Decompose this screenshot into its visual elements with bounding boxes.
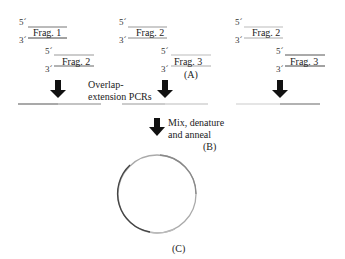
fragment-label: Frag. 1 [33,28,61,38]
three-prime-label: 3´ [19,36,27,45]
arrow-down-icon [149,118,165,136]
five-prime-label: 5´ [161,47,169,56]
pcr-label-line2: extension PCRs [88,92,152,102]
five-prime-label: 5´ [19,18,27,27]
three-prime-label: 3´ [276,65,284,74]
fragment-label: Frag. 2 [62,57,90,67]
five-prime-label: 5´ [235,18,243,27]
fragment-label: Frag. 2 [136,28,164,38]
mix-label-line2: and anneal [168,130,211,140]
step-c-label: (C) [172,244,185,254]
pcr-label-line1: Overlap- [88,80,124,90]
arrow-down-icon [50,80,66,98]
arrow-down-icon [272,80,288,98]
fragment-label: Frag. 3 [174,57,202,67]
fragment-label: Frag. 2 [252,28,280,38]
five-prime-label: 5´ [119,18,127,27]
three-prime-label: 3´ [119,36,127,45]
circular-plasmid [118,155,196,233]
three-prime-label: 3´ [235,36,243,45]
step-b-label: (B) [203,142,216,152]
three-prime-label: 3´ [45,65,53,74]
five-prime-label: 5´ [276,47,284,56]
five-prime-label: 5´ [45,47,53,56]
three-prime-label: 3´ [161,65,169,74]
mix-label-line1: Mix, denature [168,118,224,128]
fragment-label: Frag. 3 [290,57,318,67]
step-a-label: (A) [184,70,198,80]
arrow-down-icon [157,80,173,98]
